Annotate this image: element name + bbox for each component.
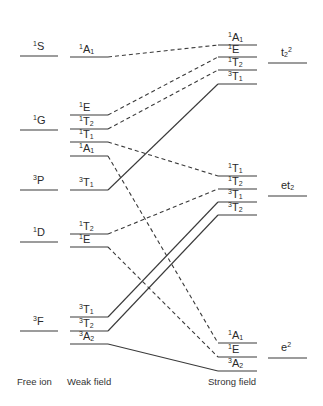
configuration-label: et2: [281, 180, 294, 191]
free-ion-term-label: 3P: [33, 175, 44, 186]
correlation-line: [108, 142, 218, 176]
correlation-line: [108, 45, 218, 57]
correlation-diagram: [0, 0, 323, 406]
correlation-line: [108, 156, 218, 343]
weak-field-state-label: 3T1: [79, 304, 94, 315]
strong-field-state-label: 3T2: [228, 202, 243, 213]
strong-field-state-label: 3A2: [228, 358, 243, 369]
strong-field-state-label: 1E: [228, 44, 239, 55]
weak-field-state-label: 1T1: [79, 129, 94, 140]
strong-field-state-label: 1A1: [228, 330, 243, 341]
strong-field-state-label: 3T1: [228, 71, 243, 82]
free-ion-term-label: 3F: [33, 316, 44, 327]
free-ion-term-label: 1G: [33, 115, 45, 126]
correlation-line: [108, 189, 218, 234]
weak-field-state-label: 3T1: [79, 177, 94, 188]
strong-field-state-label: 1T2: [228, 57, 243, 68]
correlation-line: [108, 247, 218, 357]
configuration-label: e2: [281, 342, 291, 353]
correlation-line: [108, 57, 218, 115]
correlation-line: [108, 84, 218, 190]
weak-field-state-label: 1E: [79, 234, 90, 245]
weak-field-state-label: 1A1: [79, 44, 94, 55]
strong-field-state-label: 3T1: [228, 189, 243, 200]
correlation-line: [108, 344, 218, 371]
weak-field-state-label: 3T2: [79, 318, 94, 329]
weak-field-state-label: 3A2: [79, 331, 94, 342]
correlation-line: [108, 215, 218, 331]
strong-field-state-label: 1T1: [228, 163, 243, 174]
weak-field-caption: Weak field: [67, 376, 111, 387]
free-ion-term-label: 1D: [33, 227, 45, 238]
free-ion-caption: Free ion: [17, 376, 52, 387]
strong-field-caption: Strong field: [208, 376, 256, 387]
weak-field-state-label: 1T2: [79, 116, 94, 127]
correlation-line: [108, 202, 218, 317]
weak-field-state-label: 1T2: [79, 221, 94, 232]
configuration-label: t22: [281, 47, 292, 58]
strong-field-state-label: 1E: [228, 344, 239, 355]
strong-field-state-label: 1T2: [228, 176, 243, 187]
strong-field-state-label: 1A1: [228, 32, 243, 43]
free-ion-term-label: 1S: [33, 41, 44, 52]
weak-field-state-label: 1E: [79, 102, 90, 113]
weak-field-state-label: 1A1: [79, 143, 94, 154]
